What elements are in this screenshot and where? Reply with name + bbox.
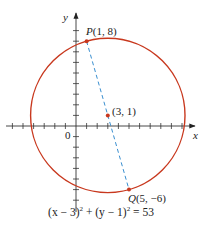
equation-part1: (x − 3) [48, 206, 79, 218]
center-label: (3, 1) [112, 106, 136, 117]
point-p-label: P(1, 8) [86, 26, 117, 37]
circle-equation: (x − 3)2 + (y − 1)2 = 53 [0, 206, 202, 218]
y-axis-label: y [63, 12, 68, 23]
equation-part3: = 53 [130, 206, 154, 218]
equation-part2: + (y − 1) [83, 206, 127, 218]
y-axis [73, 13, 79, 212]
origin-label: 0 [65, 130, 71, 141]
point-q-name: Q [128, 192, 136, 204]
point-p-name: P [86, 25, 93, 37]
point-p-coords: (1, 8) [93, 25, 117, 37]
point-center [106, 113, 110, 117]
point-q-label: Q(5, −6) [128, 193, 166, 204]
point-q [127, 188, 131, 192]
point-p [85, 39, 89, 43]
x-axis-label: x [193, 130, 198, 141]
point-q-coords: (5, −6) [136, 192, 166, 204]
x-axis [6, 123, 195, 129]
